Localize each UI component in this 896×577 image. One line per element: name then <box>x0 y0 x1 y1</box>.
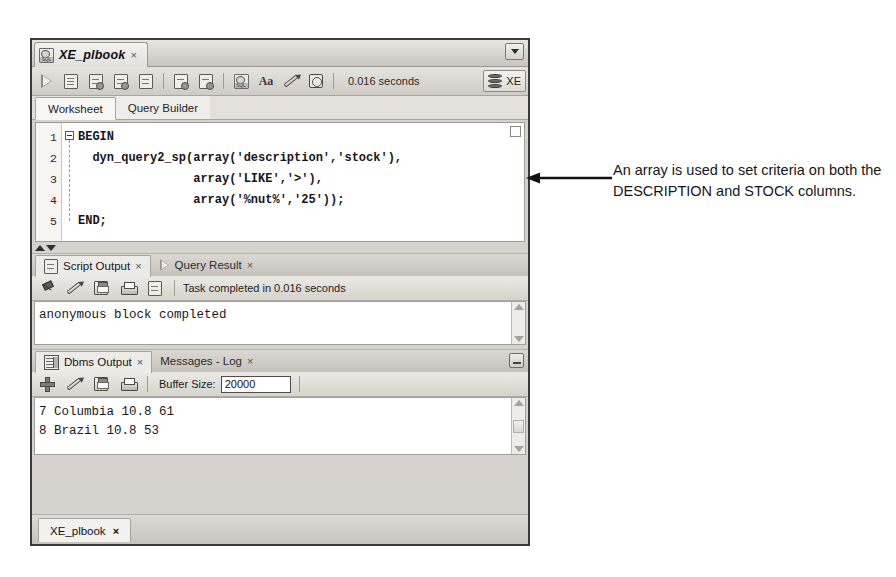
tab-label: Script Output <box>63 260 130 272</box>
annotation-text: An array is used to set criteria on both… <box>613 160 883 202</box>
buffer-size-input[interactable] <box>221 376 291 393</box>
tab-dbms-output[interactable]: Dbms Output × <box>35 351 152 373</box>
tab-label: Dbms Output <box>64 356 132 368</box>
autotrace-icon <box>114 74 128 89</box>
close-icon[interactable]: × <box>137 356 143 368</box>
tab-script-output[interactable]: Script Output × <box>35 255 151 277</box>
open-in-editor-button[interactable] <box>144 277 166 299</box>
save-button[interactable] <box>90 277 112 299</box>
code-line: dyn_query2_sp(array('description','stock… <box>62 148 524 169</box>
worksheet-toolbar: Aa 0.016 seconds XE <box>32 67 528 96</box>
scroll-down-arrow-icon[interactable] <box>514 446 524 452</box>
save-button[interactable] <box>90 373 112 395</box>
close-icon[interactable]: × <box>130 49 136 61</box>
tab-worksheet[interactable]: Worksheet <box>35 97 116 120</box>
code-text-area[interactable]: BEGIN dyn_query2_sp(array('description',… <box>62 123 524 241</box>
collapse-minus-icon[interactable] <box>65 131 74 140</box>
toolbar-separator <box>174 280 175 296</box>
script-output-text-area[interactable]: anonymous block completed <box>34 301 526 345</box>
unshared-sql-worksheet-button[interactable] <box>230 70 252 92</box>
chevron-down-icon <box>511 49 519 54</box>
dbms-output-scrollbar[interactable] <box>511 398 525 454</box>
explain-plan-button[interactable] <box>85 70 107 92</box>
connection-selector[interactable]: XE <box>483 70 526 92</box>
magnifier-sheet-icon <box>139 74 153 89</box>
triangle-down-icon[interactable] <box>46 245 56 251</box>
worksheet-tab-label: XE_plbook <box>59 48 125 62</box>
script-output-tabstrip: Script Output × Query Result × <box>32 253 528 276</box>
toolbar-separator <box>223 73 224 89</box>
clear-button[interactable] <box>63 373 85 395</box>
sql-document-icon <box>39 48 54 63</box>
pin-button[interactable] <box>36 277 58 299</box>
tab-label: Messages - Log <box>160 355 242 367</box>
tab-query-result[interactable]: Query Result × <box>151 254 262 276</box>
enable-dbms-output-button[interactable] <box>36 373 58 395</box>
clear-button[interactable] <box>63 277 85 299</box>
explain-plan-icon <box>89 74 103 89</box>
toolbar-separator <box>299 376 300 392</box>
restore-window-icon[interactable] <box>509 353 524 368</box>
timing-button[interactable] <box>305 70 327 92</box>
line-number: 1 <box>36 127 61 148</box>
tab-list-dropdown-button[interactable] <box>505 43 524 60</box>
code-fold-rail <box>69 140 70 221</box>
floppy-disk-icon <box>94 377 108 391</box>
sql-database-icon <box>234 74 249 89</box>
rollback-db-icon <box>199 74 213 89</box>
dbms-output-icon <box>44 355 59 370</box>
print-button[interactable] <box>117 373 139 395</box>
code-line: array('%nut%','25')); <box>62 190 524 211</box>
scroll-up-arrow-icon[interactable] <box>514 400 524 406</box>
output-line: 8 Brazil 10.8 53 <box>35 422 525 441</box>
close-icon[interactable]: × <box>247 355 253 367</box>
run-statement-button[interactable] <box>35 70 57 92</box>
dbms-output-toolbar: Buffer Size: <box>32 372 528 397</box>
document-tab-label: XE_plbook <box>50 525 106 537</box>
script-sheet-icon <box>64 74 78 89</box>
commit-button[interactable] <box>170 70 192 92</box>
sql-history-button[interactable] <box>135 70 157 92</box>
editor-splitter[interactable] <box>32 242 528 253</box>
commit-check-icon <box>174 74 188 89</box>
autotrace-button[interactable] <box>110 70 132 92</box>
scrollbar-thumb[interactable] <box>513 420 524 433</box>
print-button[interactable] <box>117 277 139 299</box>
rollback-button[interactable] <box>195 70 217 92</box>
scroll-up-arrow-icon[interactable] <box>514 304 524 310</box>
pin-icon <box>40 281 54 295</box>
output-line: anonymous block completed <box>35 302 525 325</box>
close-icon[interactable]: × <box>113 525 119 537</box>
pencil-eraser-icon <box>66 281 81 294</box>
worksheet-tab-strip: XE_plbook × <box>32 40 528 67</box>
code-line: END; <box>62 211 524 232</box>
line-number: 4 <box>36 190 61 211</box>
toolbar-separator <box>333 73 334 89</box>
database-cylinder-icon <box>488 74 502 89</box>
script-output-scrollbar[interactable] <box>511 302 525 344</box>
printer-icon <box>121 378 136 391</box>
line-number: 5 <box>36 211 61 232</box>
close-icon[interactable]: × <box>135 260 141 272</box>
format-text-button[interactable]: Aa <box>255 70 277 92</box>
run-script-button[interactable] <box>60 70 82 92</box>
tab-query-builder[interactable]: Query Builder <box>116 96 210 119</box>
toolbar-separator <box>163 73 164 89</box>
output-line: 7 Columbia 10.8 61 <box>35 398 525 422</box>
code-line: array('LIKE','>'), <box>62 169 524 190</box>
document-tab-xe-plbook[interactable]: XE_plbook × <box>38 518 131 542</box>
dbms-output-text-area[interactable]: 7 Columbia 10.8 61 8 Brazil 10.8 53 <box>34 397 526 455</box>
close-icon[interactable]: × <box>247 259 253 271</box>
screenshot-root: XE_plbook × <box>0 0 896 577</box>
run-triangle-icon <box>41 74 52 88</box>
script-output-icon <box>44 259 58 274</box>
worksheet-tab-xe-plbook[interactable]: XE_plbook × <box>34 42 148 67</box>
scroll-down-arrow-icon[interactable] <box>514 336 524 342</box>
connection-name-label: XE <box>506 75 521 87</box>
toolbar-separator <box>147 376 148 392</box>
tab-messages-log[interactable]: Messages - Log × <box>152 350 261 372</box>
triangle-up-icon[interactable] <box>35 245 45 251</box>
clear-button[interactable] <box>280 70 302 92</box>
clock-icon <box>309 74 323 88</box>
sql-code-editor[interactable]: 1 2 3 4 5 BEGIN dyn_query2_sp(array('des… <box>35 122 525 242</box>
